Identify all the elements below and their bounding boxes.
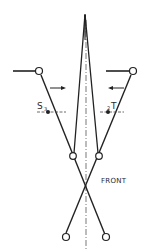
left-bottom-pivot xyxy=(63,234,70,241)
linkage-diagram: S 3 2 T FRONT xyxy=(0,0,147,252)
left-mid-pivot xyxy=(70,153,77,160)
arrow-right-icon xyxy=(50,86,66,90)
t-label: T xyxy=(110,101,117,111)
right-mid-pivot xyxy=(96,153,103,160)
arrow-left-icon xyxy=(108,86,124,90)
right-top-pivot xyxy=(130,68,137,75)
front-label: FRONT xyxy=(101,177,127,185)
right-bottom-pivot xyxy=(103,234,110,241)
s-subscript: 3 xyxy=(44,106,47,112)
t-subscript: 2 xyxy=(107,105,110,111)
s-label: S xyxy=(37,101,43,111)
left-top-pivot xyxy=(36,68,43,75)
